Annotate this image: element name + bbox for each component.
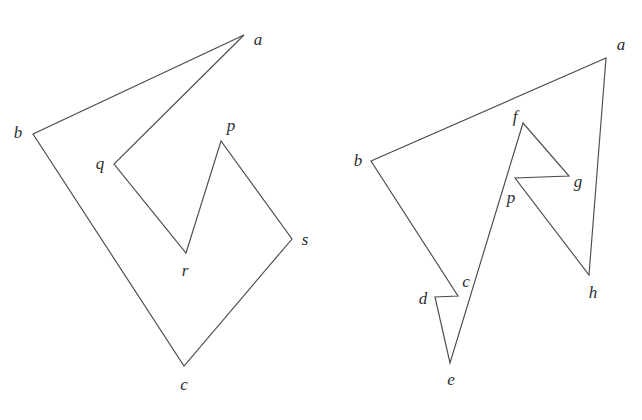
right-vertex-label-d: d [419,290,428,307]
right-vertex-label-b: b [354,152,363,169]
left-vertex-label-c: c [180,376,188,393]
left-vertex-label-s: s [302,231,309,248]
polygon-svg-layer [0,0,642,420]
left-vertex-label-b: b [14,124,23,141]
left-vertex-label-q: q [96,155,105,172]
left-vertex-label-p: p [227,117,236,134]
left-vertex-label-a: a [254,31,263,48]
left-vertex-label-r: r [182,262,189,279]
right-polygon-path [371,58,606,363]
left-polygon-path [33,35,292,366]
right-vertex-label-a: a [617,36,626,53]
right-vertex-label-h: h [589,284,598,301]
right-vertex-label-p: p [507,189,516,206]
right-vertex-label-c: c [462,273,470,290]
right-vertex-label-f: f [513,108,518,125]
right-vertex-label-g: g [574,173,583,190]
figure-canvas: a b c s p r q a b c d e f g p h [0,0,642,420]
right-vertex-label-e: e [447,371,455,388]
